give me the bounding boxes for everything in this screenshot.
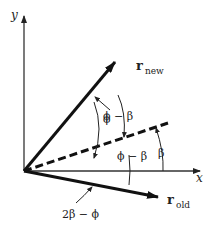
angle-label-beta: β [158, 147, 164, 160]
diagram-svg: y x r new r old ϕ ϕ − β ϕ − β β 2β − ϕ [0, 0, 217, 234]
angle-arc-phi [94, 102, 99, 158]
y-axis-label: y [10, 8, 18, 22]
angle-label-phi-minus-beta-lower: ϕ − β [117, 150, 147, 163]
phi-pointer [95, 97, 110, 110]
angle-arc-two-beta-minus-phi [76, 187, 92, 203]
r-old-vector [24, 171, 158, 197]
r-old-label-subscript: old [176, 200, 190, 210]
x-axis-label: x [196, 171, 203, 185]
r-new-label-subscript: new [145, 66, 164, 76]
r-old-label-base: r [167, 192, 174, 207]
reflection-diagram: y x r new r old ϕ ϕ − β ϕ − β β 2β − ϕ [0, 0, 217, 234]
angle-label-phi-minus-beta-upper: ϕ − β [103, 110, 133, 123]
angle-label-two-beta-minus-phi: 2β − ϕ [62, 208, 100, 221]
r-new-label-base: r [136, 58, 143, 73]
